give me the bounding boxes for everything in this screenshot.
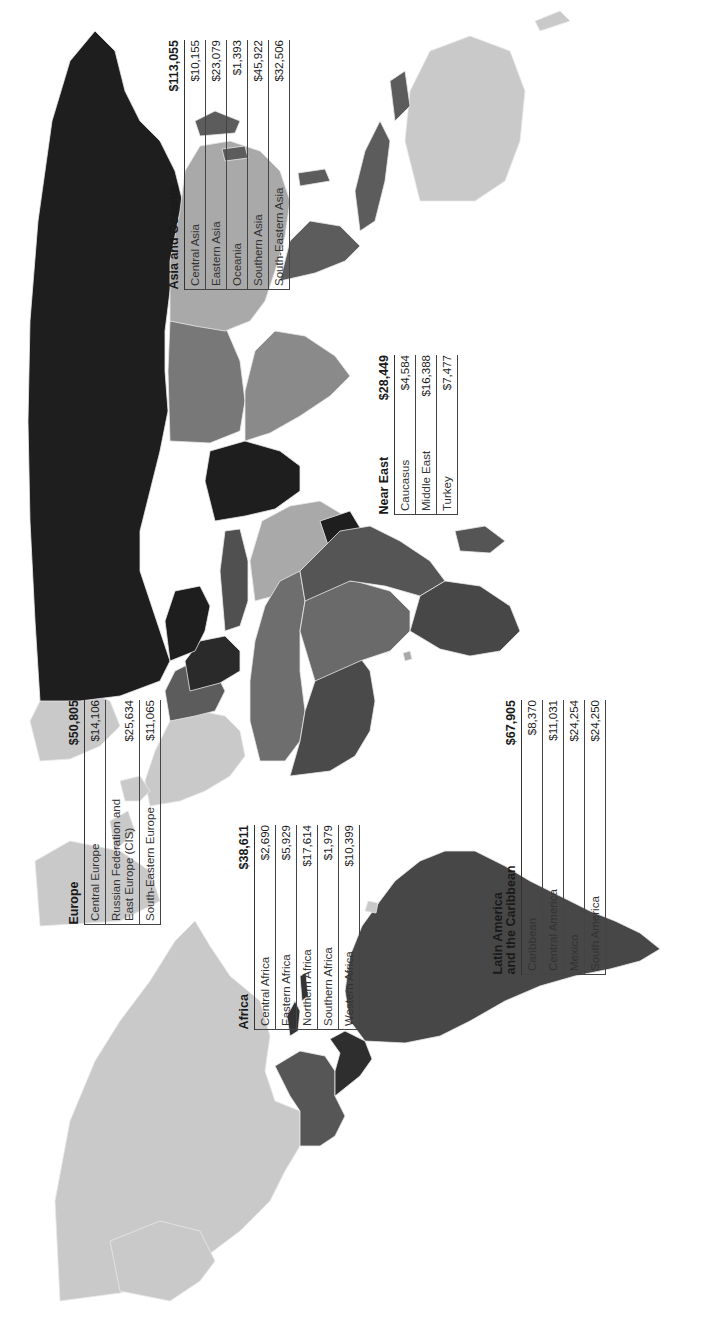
row-value: $45,922 bbox=[248, 40, 269, 124]
africa-title: Africa bbox=[238, 898, 255, 1029]
row-value: $5,929 bbox=[276, 825, 297, 898]
row-label: Russian Federation and East Europe (CIS) bbox=[106, 778, 140, 925]
row-value: $1,393 bbox=[227, 40, 248, 124]
row-label: Eastern Asia bbox=[206, 124, 227, 289]
world-choropleth-map bbox=[0, 0, 701, 1321]
row-label: Caucasus bbox=[395, 422, 416, 515]
latin-america-title: Latin America and the Caribbean bbox=[492, 784, 522, 975]
row-label: Eastern Africa bbox=[276, 898, 297, 1029]
africa-total: $38,611 bbox=[238, 825, 255, 898]
row-value: $7,477 bbox=[437, 355, 458, 422]
row-value: $32,506 bbox=[269, 40, 290, 124]
row-label: Turkey bbox=[437, 422, 458, 515]
row-label: Northern Africa bbox=[297, 898, 318, 1029]
region-gabon-light bbox=[403, 651, 412, 661]
row-label: Caribbean bbox=[522, 784, 543, 975]
asia-oceania-title: Asia and Oceania bbox=[168, 124, 185, 289]
row-label: Central Europe bbox=[85, 778, 106, 925]
row-label: Southern Asia bbox=[248, 124, 269, 289]
row-label: South-Eastern Europe bbox=[140, 778, 161, 925]
row-value: $24,254 bbox=[564, 700, 585, 784]
region-southeast-asia bbox=[280, 221, 360, 281]
row-label: Southern Africa bbox=[318, 898, 339, 1029]
row-label: Oceania bbox=[227, 124, 248, 289]
europe-total: $50,805 bbox=[68, 700, 85, 778]
row-value: $8,370 bbox=[522, 700, 543, 784]
row-label: South-Eastern Asia bbox=[269, 124, 290, 289]
latin-america-title-line2: and the Caribbean bbox=[505, 792, 518, 975]
region-australia bbox=[405, 36, 525, 201]
row-value: $10,399 bbox=[339, 825, 360, 898]
row-value: $14,106 bbox=[85, 700, 106, 778]
region-new-zealand bbox=[535, 11, 570, 31]
region-papua bbox=[390, 71, 410, 121]
row-value: $25,634 bbox=[106, 700, 140, 778]
row-value: $11,031 bbox=[543, 700, 564, 784]
region-french-guiana bbox=[365, 901, 378, 913]
row-value: $4,584 bbox=[395, 355, 416, 422]
row-label: Middle East bbox=[416, 422, 437, 515]
near-east-table: Near East $28,449 Caucasus$4,584 Middle … bbox=[378, 355, 458, 515]
africa-table: Africa $38,611 Central Africa$2,690 East… bbox=[238, 825, 360, 1030]
region-indonesia bbox=[355, 121, 390, 231]
row-value: $17,614 bbox=[297, 825, 318, 898]
row-value: $11,065 bbox=[140, 700, 161, 778]
row-value: $24,250 bbox=[585, 700, 606, 784]
region-south-asia bbox=[245, 331, 350, 441]
row-label: Central Africa bbox=[255, 898, 276, 1029]
region-madagascar bbox=[455, 526, 505, 553]
region-southern-africa bbox=[410, 581, 520, 656]
row-value: $2,690 bbox=[255, 825, 276, 898]
europe-table: Europe $50,805 Central Europe$14,106 Rus… bbox=[68, 700, 161, 925]
asia-oceania-total: $113,055 bbox=[168, 40, 185, 124]
row-label: Central America bbox=[543, 784, 564, 975]
region-philippines bbox=[298, 169, 330, 186]
latin-america-table: Latin America and the Caribbean $67,905 … bbox=[492, 700, 606, 975]
asia-oceania-table: Asia and Oceania $113,055 Central Asia$1… bbox=[168, 40, 290, 290]
row-label: Central Asia bbox=[185, 124, 206, 289]
row-value: $23,079 bbox=[206, 40, 227, 124]
europe-title: Europe bbox=[68, 778, 85, 925]
row-value: $1,979 bbox=[318, 825, 339, 898]
region-russia-cis bbox=[28, 31, 185, 701]
rotated-map-stage: Asia and Oceania $113,055 Central Asia$1… bbox=[0, 0, 701, 1321]
near-east-total: $28,449 bbox=[378, 355, 395, 422]
row-label: Mexico bbox=[564, 784, 585, 975]
region-turkey bbox=[220, 529, 248, 631]
near-east-title: Near East bbox=[378, 422, 395, 515]
row-label: South America bbox=[585, 784, 606, 975]
row-value: $10,155 bbox=[185, 40, 206, 124]
latin-america-total: $67,905 bbox=[492, 700, 522, 784]
row-label: Western Africa bbox=[339, 898, 360, 1029]
region-central-asia bbox=[168, 311, 245, 443]
row-value: $16,388 bbox=[416, 355, 437, 422]
